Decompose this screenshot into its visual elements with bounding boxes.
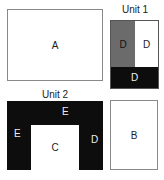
room-a: A	[7, 9, 103, 81]
unit2-label-top: E	[62, 106, 69, 117]
unit1-cell-gray: D	[111, 21, 135, 67]
room-a-label: A	[52, 40, 59, 51]
unit1-cell-white: D	[135, 21, 158, 67]
unit2-label-left: E	[14, 128, 21, 139]
unit2-block: E E D C	[7, 101, 103, 170]
unit1-cell-black-label: D	[131, 72, 138, 83]
room-c-label: C	[51, 142, 58, 153]
unit2-title: Unit 2	[30, 90, 80, 100]
room-b: B	[110, 100, 158, 170]
room-b-label: B	[131, 130, 138, 141]
unit1-cell-white-label: D	[143, 39, 150, 50]
unit1-block: D D D	[110, 20, 159, 89]
unit2-label-right: D	[91, 134, 98, 145]
unit1-title: Unit 1	[110, 5, 160, 15]
room-c: C	[31, 125, 79, 170]
unit1-cell-gray-label: D	[119, 39, 126, 50]
unit1-cell-black: D	[111, 67, 158, 88]
